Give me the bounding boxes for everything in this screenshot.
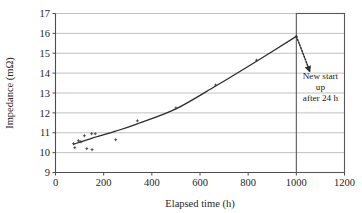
y-axis-tick-label: 13 bbox=[40, 88, 51, 99]
x-axis: 020040060080010001200 bbox=[53, 173, 355, 189]
y-axis-tick-label: 11 bbox=[40, 127, 50, 138]
x-axis-tick-label: 1200 bbox=[334, 177, 355, 188]
annotation-line-3: after 24 h bbox=[303, 93, 339, 103]
y-axis-tick-label: 17 bbox=[40, 8, 51, 19]
y-axis-tick-label: 9 bbox=[45, 167, 50, 178]
x-axis-tick-label: 0 bbox=[53, 177, 58, 188]
x-axis-tick-label: 400 bbox=[144, 177, 160, 188]
x-axis-tick-label: 1000 bbox=[286, 177, 307, 188]
y-axis-title: Impedance (mΩ) bbox=[4, 57, 16, 129]
annotation-line-2: up bbox=[316, 82, 326, 92]
x-axis-tick-label: 200 bbox=[96, 177, 112, 188]
y-axis-tick-label: 15 bbox=[40, 48, 51, 59]
annotation-line-1: New start bbox=[303, 71, 339, 81]
x-axis-tick-label: 600 bbox=[192, 177, 208, 188]
x-axis-tick-label: 800 bbox=[240, 177, 256, 188]
impedance-vs-elapsed-time-chart: 91011121314151617020040060080010001200El… bbox=[0, 0, 362, 213]
y-axis-tick-label: 10 bbox=[40, 147, 51, 158]
y-axis-tick-label: 12 bbox=[40, 108, 51, 119]
y-axis-tick-label: 16 bbox=[40, 28, 51, 39]
x-axis-title: Elapsed time (h) bbox=[165, 198, 235, 210]
y-axis: 91011121314151617 bbox=[40, 8, 56, 178]
y-axis-tick-label: 14 bbox=[40, 68, 51, 79]
chart-container: 91011121314151617020040060080010001200El… bbox=[0, 0, 362, 213]
